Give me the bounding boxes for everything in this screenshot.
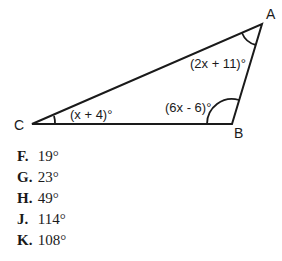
choice-value: 19°	[38, 148, 59, 164]
triangle-diagram: A B C (2x + 11)° (6x - 6)° (x + 4)°	[0, 0, 282, 140]
answer-choices: F. 19° G. 23° H. 49° J. 114° K. 108°	[17, 146, 66, 251]
choice-value: 114°	[38, 211, 66, 227]
answer-choice-k[interactable]: K. 108°	[17, 230, 66, 251]
angle-arc-a	[242, 33, 256, 45]
choice-value: 23°	[38, 169, 59, 185]
angle-label-a: (2x + 11)°	[190, 56, 246, 71]
choice-value: 108°	[38, 232, 67, 248]
vertex-label-a: A	[266, 6, 276, 22]
angle-arc-c	[54, 116, 55, 124]
choice-letter: G.	[17, 167, 34, 188]
vertex-label-c: C	[14, 117, 24, 133]
vertex-label-b: B	[234, 125, 243, 140]
answer-choice-f[interactable]: F. 19°	[17, 146, 66, 167]
choice-letter: H.	[17, 188, 34, 209]
choice-letter: K.	[17, 230, 34, 251]
choice-value: 49°	[38, 190, 59, 206]
answer-choice-h[interactable]: H. 49°	[17, 188, 66, 209]
answer-choice-g[interactable]: G. 23°	[17, 167, 66, 188]
angle-label-c: (x + 4)°	[70, 107, 112, 122]
choice-letter: J.	[17, 209, 34, 230]
angle-label-b: (6x - 6)°	[165, 100, 211, 115]
angle-arc-b	[207, 99, 239, 124]
triangle-figure: A B C (2x + 11)° (6x - 6)° (x + 4)°	[0, 0, 282, 140]
choice-letter: F.	[17, 146, 34, 167]
triangle-abc	[32, 24, 262, 124]
answer-choice-j[interactable]: J. 114°	[17, 209, 66, 230]
